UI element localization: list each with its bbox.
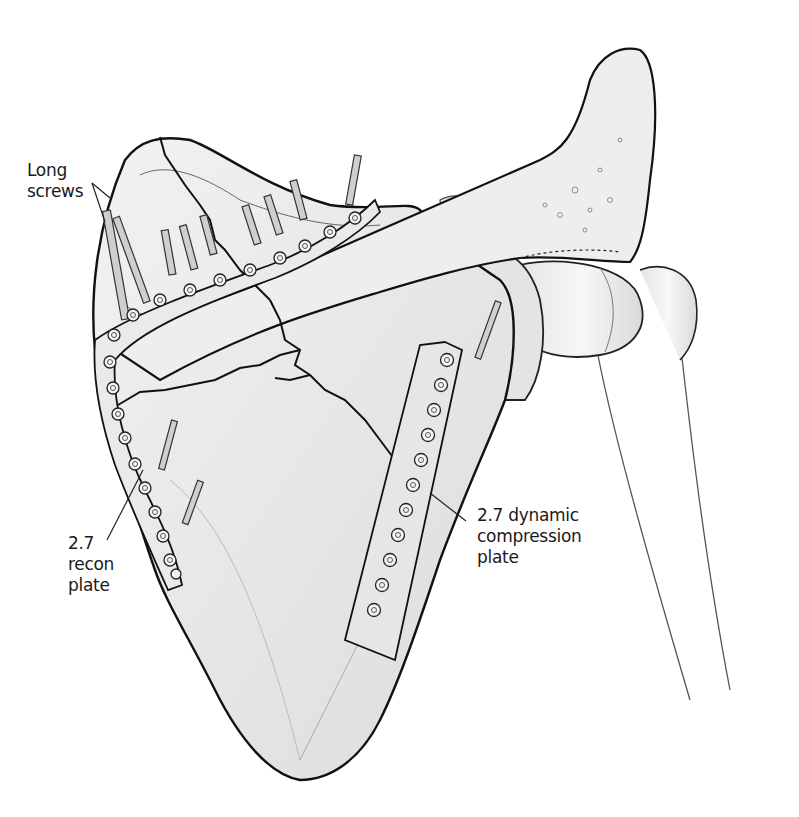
label-long-screws: Long screws <box>27 160 83 202</box>
label-dcp-plate-line3: plate <box>477 547 582 568</box>
label-recon-plate-line2: recon <box>68 554 114 575</box>
label-long-screws-line2: screws <box>27 181 83 202</box>
label-recon-plate-line3: plate <box>68 575 114 596</box>
label-dcp-plate-line2: compression <box>477 526 582 547</box>
label-dcp-plate: 2.7 dynamic compression plate <box>477 505 582 568</box>
label-long-screws-line1: Long <box>27 160 83 181</box>
label-dcp-plate-line1: 2.7 dynamic <box>477 505 582 526</box>
label-recon-plate-line1: 2.7 <box>68 533 114 554</box>
scapula-fixation-illustration <box>0 0 799 817</box>
label-recon-plate: 2.7 recon plate <box>68 533 114 596</box>
humerus <box>520 261 730 720</box>
